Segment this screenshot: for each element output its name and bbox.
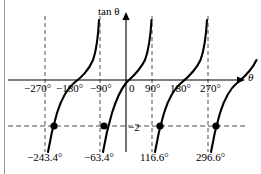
origin-label: 0 <box>129 83 135 94</box>
tangent-function-graph-figure: tan θ θ 0 −270° −180° −90° 90° 180° 270°… <box>0 0 261 174</box>
x-tick-label-90: 90° <box>145 83 160 94</box>
x-tick-label-neg270: −270° <box>24 83 51 94</box>
solution-label-neg63: −63.4° <box>84 152 114 163</box>
intersection-dot-116 <box>156 122 163 129</box>
x-tick-label-neg180: −180° <box>56 83 83 94</box>
solution-label-296: 296.6° <box>196 152 225 163</box>
intersection-dot-neg243 <box>50 122 57 129</box>
minus-two-label: −2 <box>128 122 140 133</box>
x-tick-label-270: 270° <box>200 83 221 94</box>
intersection-dot-neg63 <box>100 122 107 129</box>
tan-theta-label: tan θ <box>98 6 119 17</box>
x-tick-label-neg90: −90° <box>90 83 112 94</box>
solution-label-neg243: −243.4° <box>27 152 62 163</box>
intersection-dot-296 <box>212 122 219 129</box>
x-tick-label-180: 180° <box>170 83 191 94</box>
y-axis-arrowhead <box>122 12 129 20</box>
theta-axis-label: θ <box>248 72 253 83</box>
solution-label-116: 116.6° <box>140 152 169 163</box>
